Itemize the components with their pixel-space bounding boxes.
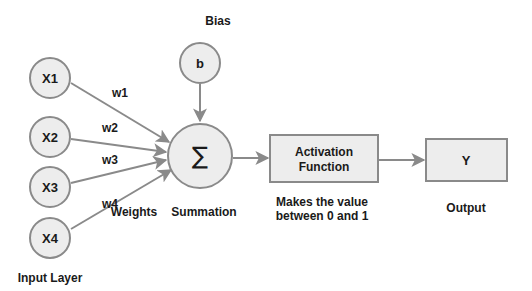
- weight-label-w3: w3: [101, 153, 118, 167]
- edge-x3-summation: [71, 160, 166, 183]
- summation-caption: Summation: [171, 205, 236, 219]
- weight-label-w1: w1: [111, 86, 128, 100]
- output-caption: Output: [446, 201, 485, 215]
- activation-function-box: Activation Function: [270, 135, 378, 182]
- output-box: Y: [426, 139, 507, 181]
- input-node-x4: X4: [30, 218, 70, 258]
- weights-caption: Weights: [111, 205, 158, 219]
- input-label-x1: X1: [42, 71, 58, 86]
- input-node-x2: X2: [30, 117, 70, 157]
- input-label-x2: X2: [42, 130, 58, 145]
- bias-title: Bias: [205, 14, 231, 28]
- input-label-x4: X4: [42, 231, 59, 246]
- activation-caption-line2: between 0 and 1: [276, 209, 369, 223]
- output-label: Y: [462, 153, 471, 168]
- weight-label-w2: w2: [101, 121, 118, 135]
- perceptron-diagram: X1 X2 X3 X4 w1 w2 w3 w4 Weights Bias b ∑…: [0, 0, 532, 291]
- sigma-icon: ∑: [192, 142, 208, 170]
- activation-caption-line1: Makes the value: [276, 195, 368, 209]
- edge-x2-summation: [71, 139, 166, 152]
- input-label-x3: X3: [42, 180, 58, 195]
- summation-node: ∑: [168, 124, 232, 188]
- bias-label: b: [196, 56, 204, 71]
- input-node-x3: X3: [30, 167, 70, 207]
- activation-label-line1: Activation: [295, 145, 353, 159]
- activation-label-line2: Function: [299, 160, 350, 174]
- input-layer-caption: Input Layer: [18, 271, 83, 285]
- bias-node: b: [180, 43, 220, 83]
- input-node-x1: X1: [30, 58, 70, 98]
